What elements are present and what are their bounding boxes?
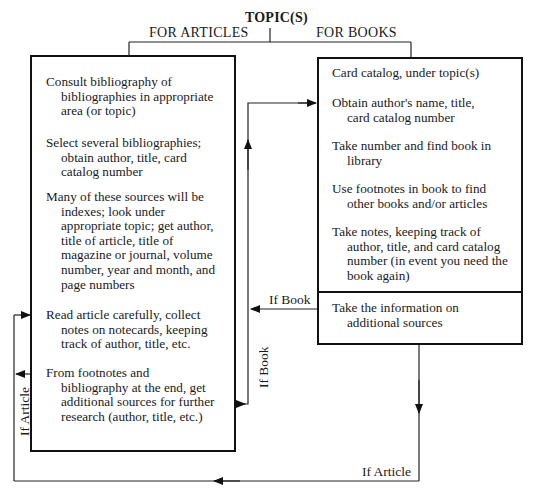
- if-article-label-vertical: If Article: [17, 387, 33, 436]
- articles-step-2: Select several bibliographies; obtain au…: [46, 136, 201, 180]
- if-article-label-bottom: If Article: [362, 464, 411, 480]
- topic-title: TOPIC(S): [245, 10, 308, 26]
- books-step-1: Card catalog, under topic(s): [332, 66, 479, 81]
- books-box-divider: [317, 291, 523, 293]
- books-step-5: Take notes, keeping track of author, tit…: [332, 225, 508, 283]
- books-step-2: Obtain author's name, title, card catalo…: [332, 96, 475, 125]
- books-step-4: Use footnotes in book to find other book…: [332, 182, 487, 211]
- if-book-label-vertical: If Book: [256, 346, 272, 388]
- articles-step-5: From footnotes and bibliography at the e…: [46, 366, 214, 424]
- articles-step-1: Consult bibliography of bibliographies i…: [46, 75, 213, 119]
- articles-step-4: Read article carefully, collect notes on…: [46, 308, 208, 352]
- books-step-3: Take number and find book in library: [332, 139, 491, 168]
- if-book-label-horizontal: If Book: [269, 292, 311, 308]
- articles-step-3: Many of these sources will be indexes; l…: [46, 190, 215, 292]
- branch-label-books: FOR BOOKS: [316, 25, 397, 41]
- branch-label-articles: FOR ARTICLES: [149, 25, 249, 41]
- books-step-6: Take the information on additional sourc…: [332, 301, 459, 330]
